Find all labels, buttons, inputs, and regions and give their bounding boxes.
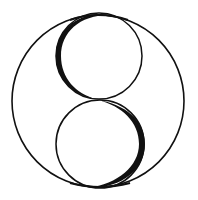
outer-circle xyxy=(12,15,184,187)
figure-canvas xyxy=(0,0,198,200)
lower-loop-thick-stroke xyxy=(88,100,145,188)
figure-eight-in-circle-graphic xyxy=(0,0,198,200)
lower-loop xyxy=(56,100,144,188)
upper-loop-thick-stroke xyxy=(56,14,112,99)
